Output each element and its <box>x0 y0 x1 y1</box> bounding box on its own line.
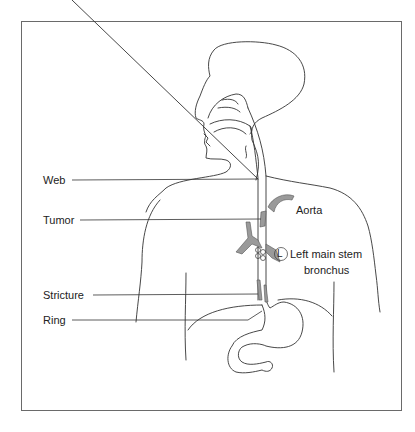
label-stricture: Stricture <box>43 289 84 301</box>
web-leader-line <box>72 0 258 179</box>
aorta-shape <box>268 195 294 212</box>
stricture-leader <box>93 294 258 295</box>
ring-marker-2 <box>261 250 266 255</box>
diaphragm <box>188 305 262 330</box>
nasal-turbinate-1 <box>222 99 238 104</box>
label-ring: Ring <box>43 314 66 326</box>
label-bronchus-marker: L <box>277 248 283 260</box>
head-outline <box>146 42 305 212</box>
nasal-cavity <box>208 94 248 118</box>
tumor-leader <box>80 219 261 220</box>
label-bronchus-line2: bronchus <box>304 264 349 276</box>
ring-leader-diag <box>248 311 262 320</box>
label-bronchus-line1: Left main stem <box>290 248 362 260</box>
inner-arm-line-right <box>333 282 334 372</box>
palate <box>210 120 252 134</box>
inner-arm-line-left <box>185 273 186 360</box>
label-aorta: Aorta <box>296 204 322 216</box>
stricture-shape-2 <box>264 285 268 302</box>
nasal-turbinate-2 <box>218 107 240 112</box>
stomach <box>228 300 303 373</box>
pharynx-back <box>248 108 266 300</box>
label-tumor: Tumor <box>43 214 74 226</box>
left-torso <box>136 200 160 322</box>
ring-marker-4 <box>261 256 266 261</box>
diaphragm-right <box>278 299 332 316</box>
tongue <box>214 128 246 134</box>
web-leader <box>72 179 258 180</box>
epiglottis <box>245 146 246 158</box>
label-web: Web <box>43 174 65 186</box>
